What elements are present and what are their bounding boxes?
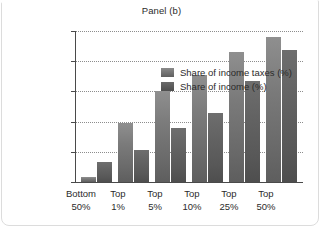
legend-label-income: Share of income (%) (180, 81, 267, 92)
x-tick-label-top-50: Top 50% (238, 188, 294, 213)
y-tick-mark-20 (71, 152, 75, 153)
y-axis-line (75, 31, 76, 182)
bar-top-1-income[interactable] (134, 150, 149, 182)
legend-swatch-icon-income (161, 82, 174, 91)
bar-top-25-income[interactable] (245, 81, 260, 182)
bar-top-50-income-taxes[interactable] (266, 37, 281, 182)
x-tick-label-top-10-line-1: Top (184, 188, 199, 199)
y-tick-mark-40 (71, 122, 75, 123)
y-tick-mark-100 (71, 31, 75, 32)
figure-card: Panel (b) Shares of Income Taxes and of … (0, 0, 323, 233)
x-tick-label-top-50-line-1: Top (258, 188, 273, 199)
x-tick-label-top-50-line-2: 50% (238, 201, 294, 214)
y-tick-mark-80 (71, 61, 75, 62)
legend-item-income[interactable]: Share of income (%) (161, 80, 292, 93)
bar-top-1-income-taxes[interactable] (118, 123, 133, 182)
x-tick-label-top-5-line-1: Top (147, 188, 162, 199)
y-tick-mark-60 (71, 91, 75, 92)
x-tick-label-top-1-line-1: Top (110, 188, 125, 199)
bar-top-5-income-taxes[interactable] (155, 91, 170, 182)
legend-label-income-taxes: Share of income taxes (%) (180, 67, 292, 78)
bar-bottom-50-income[interactable] (97, 162, 112, 182)
bar-bottom-50-income-taxes[interactable] (81, 177, 96, 182)
x-axis-line (75, 182, 303, 183)
gridline-100 (75, 31, 303, 32)
legend-swatch-icon-income-taxes (161, 68, 174, 77)
chart-title: Panel (b) (0, 5, 323, 16)
x-tick-label-top-25-line-1: Top (221, 188, 236, 199)
bar-top-5-income[interactable] (171, 128, 186, 182)
legend-item-income-taxes[interactable]: Share of income taxes (%) (161, 66, 292, 79)
legend: Share of income taxes (%) Share of incom… (161, 66, 292, 94)
plot-area: 100 80 60 40 20 0 (75, 31, 303, 182)
y-tick-mark-0 (71, 182, 75, 183)
bar-top-10-income[interactable] (208, 113, 223, 182)
